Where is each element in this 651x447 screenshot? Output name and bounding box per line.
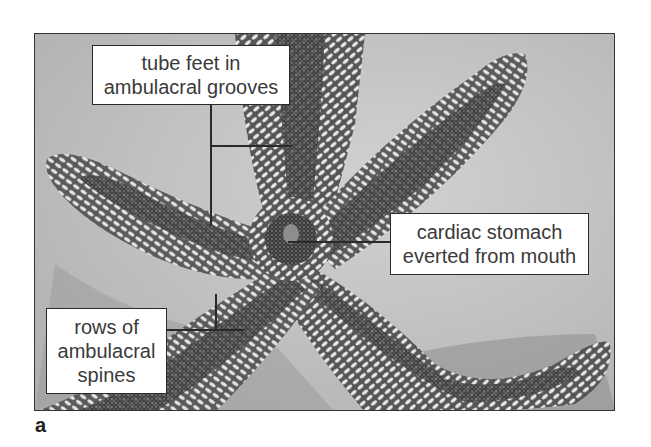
leader-line-spines-vertical [215,294,217,330]
panel-letter: a [35,414,46,437]
label-ambulacral-spines-line-1: rows of [58,315,156,339]
label-tube-feet-line-1: tube feet in [104,51,279,75]
bleed-through-text [110,10,490,26]
leader-line-cardiac-stomach [288,241,390,243]
label-ambulacral-spines-line-3: spines [58,363,156,387]
label-cardiac-stomach-line-1: cardiac stomach [403,220,576,244]
label-ambulacral-spines: rows of ambulacral spines [46,308,167,394]
leader-line-spines-horizontal [166,329,244,331]
label-tube-feet-line-2: ambulacral grooves [104,75,279,99]
leader-line-tube-feet-branch [210,145,292,147]
label-tube-feet: tube feet in ambulacral grooves [92,45,290,105]
label-ambulacral-spines-line-2: ambulacral [58,339,156,363]
label-cardiac-stomach: cardiac stomach everted from mouth [390,213,589,275]
label-cardiac-stomach-line-2: everted from mouth [403,244,576,268]
leader-line-tube-feet-vertical [210,104,212,226]
